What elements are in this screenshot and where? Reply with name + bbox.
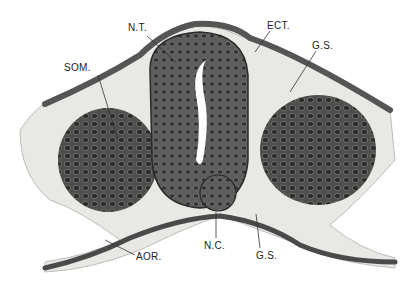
notochord [200,175,236,211]
label-ground-substance-lower: G.S. [256,250,277,261]
label-ectoderm: ECT. [267,20,290,31]
label-aorta: AOR. [136,251,162,262]
somite-right [260,95,376,205]
label-somite: SOM. [64,62,91,73]
figure: N.T. ECT. G.S. SOM. N.C. G.S. AOR. [0,0,418,290]
somite-left [58,108,158,212]
label-notochord: N.C. [204,240,225,251]
label-neural-tube: N.T. [128,22,147,33]
label-ground-substance-upper: G.S. [312,40,333,51]
